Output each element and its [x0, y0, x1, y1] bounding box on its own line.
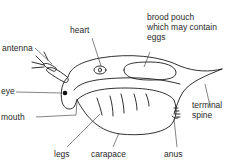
heart-shape	[94, 66, 106, 74]
brood-pouch-leader	[144, 52, 150, 67]
legs-label: legs	[54, 149, 70, 159]
leg-line	[110, 96, 113, 116]
leg-line	[146, 94, 149, 106]
heart-leader	[92, 38, 101, 66]
anus-label: anus	[164, 149, 182, 159]
leg-line	[121, 94, 124, 113]
antenna-bristle	[44, 52, 48, 60]
antenna-bristle	[36, 56, 44, 64]
carapace-outline	[77, 88, 176, 135]
brood-pouch-outline	[124, 62, 176, 80]
body-dorsal-outline	[68, 56, 222, 77]
antenna-leader	[35, 48, 52, 64]
heart-inner	[99, 68, 102, 72]
antenna-bristle	[32, 67, 44, 68]
carapace-label: carapace	[91, 149, 126, 159]
eye-spot	[63, 91, 68, 96]
brood-pouch-label: brood pouch which may contain eggs	[147, 12, 217, 42]
mouth-label: mouth	[1, 112, 25, 122]
terminal-spine-label: terminal spine	[192, 100, 222, 120]
anus-leader	[174, 119, 177, 147]
leg-line	[134, 94, 137, 110]
daphnia-diagram: antenna heart brood pouch which may cont…	[0, 0, 229, 162]
legs-leader	[67, 114, 100, 147]
eye-leader	[16, 92, 62, 93]
eye-label: eye	[1, 86, 15, 96]
antenna-label: antenna	[2, 43, 33, 53]
heart-label: heart	[70, 25, 89, 35]
leg-line	[97, 98, 102, 115]
carapace-leader	[113, 133, 119, 147]
